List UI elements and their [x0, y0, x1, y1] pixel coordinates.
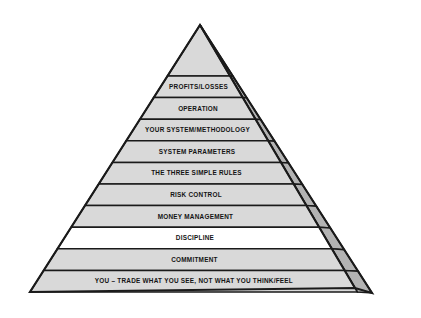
pyramid-tier-label-1: PROFITS/LOSSES [169, 83, 228, 90]
pyramid-tier-label-9: COMMITMENT [171, 256, 218, 263]
pyramid-tier-label-6: RISK CONTROL [170, 191, 222, 198]
pyramid-tier-label-7: MONEY MANAGEMENT [158, 213, 234, 220]
pyramid-tier-label-5: THE THREE SIMPLE RULES [151, 169, 242, 176]
pyramid-front-face [30, 25, 357, 292]
pyramid-tier-label-3: YOUR SYSTEM/METHODOLOGY [145, 126, 250, 133]
pyramid-diagram-svg: PROFITS/LOSSESOPERATIONYOUR SYSTEM/METHO… [0, 0, 421, 318]
pyramid-tier-label-10: YOU – TRADE WHAT YOU SEE, NOT WHAT YOU T… [95, 277, 293, 285]
pyramid-apex-front [168, 25, 231, 76]
pyramid-tier-label-2: OPERATION [178, 105, 218, 112]
pyramid-tier-label-8: DISCIPLINE [176, 234, 215, 241]
pyramid-tier-label-4: SYSTEM PARAMETERS [159, 148, 236, 155]
pyramid-diagram-canvas: PROFITS/LOSSESOPERATIONYOUR SYSTEM/METHO… [0, 0, 421, 318]
